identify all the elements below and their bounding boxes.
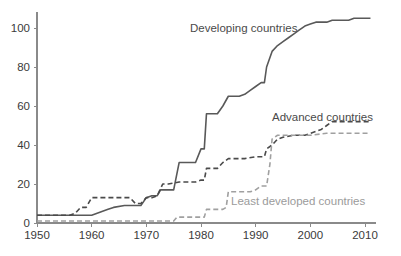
- x-tick-label: 1990: [243, 229, 269, 241]
- x-tick-label: 1960: [79, 229, 105, 241]
- annotation-advanced-countries: Advanced countries: [272, 111, 373, 123]
- y-tick-label: 40: [17, 139, 30, 151]
- y-tick-label: 100: [11, 22, 30, 34]
- annotation-developing-countries: Developing countries: [190, 22, 298, 34]
- x-tick-label: 2000: [298, 229, 324, 241]
- annotation-least-developed-countries: Least developed countries: [231, 195, 366, 207]
- y-tick-label: 0: [24, 217, 30, 229]
- x-tick-label: 1970: [134, 229, 160, 241]
- chart-container: 020406080100 195019601970198019902000201…: [0, 0, 401, 256]
- line-chart: 020406080100 195019601970198019902000201…: [0, 0, 401, 256]
- y-tick-label: 80: [17, 61, 30, 73]
- plot-background: [0, 0, 401, 256]
- y-tick-label: 60: [17, 100, 30, 112]
- x-tick-label: 1950: [24, 229, 50, 241]
- y-tick-label: 20: [17, 178, 30, 190]
- x-tick-label: 2010: [352, 229, 378, 241]
- x-tick-label: 1980: [188, 229, 214, 241]
